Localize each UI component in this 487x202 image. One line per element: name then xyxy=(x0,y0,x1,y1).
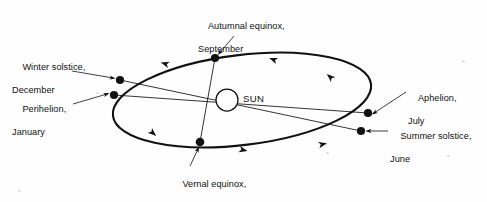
leader-aphelion xyxy=(374,92,406,113)
scan-speckle xyxy=(326,152,329,154)
label-vernal-equinox: Vernal equinox, March xyxy=(172,168,246,202)
label-perihelion-line1: Perihelion, xyxy=(22,104,66,114)
label-summer-solstice-line1: Summer solstice, xyxy=(400,131,471,141)
label-winter-solstice-line1: Winter solstice, xyxy=(22,62,85,72)
apsidal-axis-line xyxy=(114,95,368,113)
label-autumnal-equinox: Autumnal equinox, September xyxy=(198,10,285,77)
dot-vernal-equinox xyxy=(196,138,205,147)
scan-speckle xyxy=(18,190,21,192)
dot-aphelion xyxy=(364,109,372,117)
scan-speckle xyxy=(96,92,99,94)
leader-vernal-equinox xyxy=(190,149,198,166)
label-perihelion-line2: January xyxy=(12,127,66,138)
dot-perihelion xyxy=(110,91,118,99)
orbit-diagram-figure: Autumnal equinox, September Winter solst… xyxy=(0,0,487,202)
solstice-axis-line xyxy=(120,80,361,131)
orbit-arrow-top-right xyxy=(325,72,336,82)
label-perihelion: Perihelion, January xyxy=(12,93,66,160)
orbit-arrow-bottom-left xyxy=(148,128,159,138)
label-vernal-equinox-line1: Vernal equinox, xyxy=(182,179,246,189)
orbit-arrow-bottom-right xyxy=(318,140,328,148)
label-sun: SUN xyxy=(243,93,264,104)
scan-speckle xyxy=(462,60,465,63)
sun-circle xyxy=(216,89,238,111)
label-autumnal-equinox-line1: Autumnal equinox, xyxy=(208,21,285,31)
label-aphelion-line1: Aphelion, xyxy=(418,93,457,103)
scan-speckle xyxy=(447,155,450,157)
label-summer-solstice: Summer solstice, June xyxy=(390,120,471,187)
label-summer-solstice-line2: June xyxy=(390,154,471,165)
orbit-arrow-top-left xyxy=(160,60,170,68)
orbit-arrow-bottom-mid xyxy=(239,146,249,154)
dot-summer-solstice xyxy=(357,127,365,135)
label-autumnal-equinox-line2: September xyxy=(198,44,285,55)
dot-winter-solstice xyxy=(116,76,124,84)
